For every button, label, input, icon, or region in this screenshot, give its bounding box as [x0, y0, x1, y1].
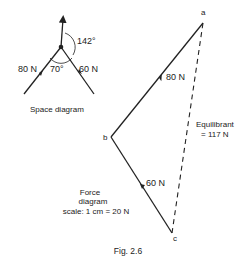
- force-80n-label: 80 N: [18, 64, 37, 74]
- point-c-label: c: [173, 234, 177, 243]
- figure-caption: Fig. 2.6: [114, 246, 143, 256]
- vector-ab: [111, 23, 203, 137]
- point-b-label: b: [103, 133, 108, 142]
- point-a-label: a: [201, 8, 206, 17]
- space-diagram: 142° 70° 80 N 60 N Space diagram: [18, 19, 98, 114]
- angle-arc-142: [65, 33, 75, 55]
- figure: 142° 70° 80 N 60 N Space diagram a b c 8…: [0, 0, 244, 260]
- equilibrant-label: Equilibrant: [196, 120, 235, 129]
- ab-force-label: 80 N: [166, 72, 185, 82]
- force-60n-label: 60 N: [79, 64, 98, 74]
- junction-point: [59, 45, 64, 50]
- force-diagram-scale: scale: 1 cm = 20 N: [63, 207, 130, 216]
- space-diagram-label: Space diagram: [30, 105, 84, 114]
- force-diagram-title-line2: diagram: [79, 197, 108, 206]
- angle-142-label: 142°: [77, 36, 96, 46]
- angle-70-label: 70°: [50, 64, 64, 74]
- equilibrant-value: = 117 N: [201, 130, 229, 139]
- force-diagram-title-line1: Force: [80, 188, 101, 197]
- equilibrant-arrow: [61, 19, 63, 47]
- bc-force-label: 60 N: [146, 178, 165, 188]
